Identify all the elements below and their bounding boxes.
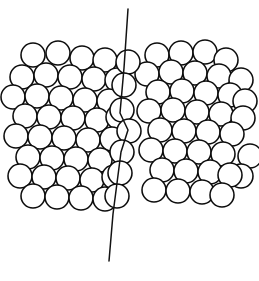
atom-circle — [210, 183, 234, 207]
bubble-raft-figure — [0, 0, 259, 281]
atom-circle — [45, 185, 69, 209]
atom-circle — [116, 50, 140, 74]
atom-circle — [142, 178, 166, 202]
atom-circle — [4, 124, 28, 148]
atom-circle — [21, 184, 45, 208]
atom-circle — [46, 41, 70, 65]
bubble-raft-canvas — [0, 0, 259, 281]
atom-circle — [112, 73, 136, 97]
atom-circle — [166, 179, 190, 203]
atom-circle — [69, 186, 93, 210]
